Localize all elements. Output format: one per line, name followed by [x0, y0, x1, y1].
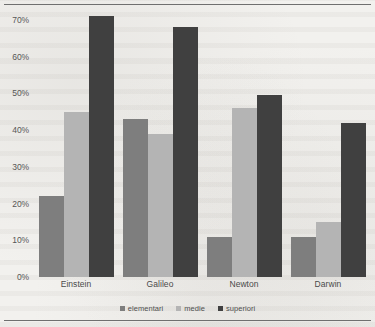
legend-label-medie: medie [184, 304, 205, 313]
legend-swatch-icon-elementari [120, 306, 125, 311]
x-axis-label-newton: Newton [202, 279, 286, 293]
y-axis-tick-70: 70% [12, 15, 29, 25]
y-axis-tick-20: 20% [12, 199, 29, 209]
legend-label-elementari: elementari [128, 304, 164, 313]
x-axis-label-galileo: Galileo [118, 279, 202, 293]
bar-darwin-superiori[interactable] [341, 123, 366, 277]
bar-darwin-elementari[interactable] [291, 237, 316, 277]
bar-newton-superiori[interactable] [257, 95, 282, 277]
legend-swatch-icon-superiori [218, 306, 223, 311]
y-axis-tick-50: 50% [12, 88, 29, 98]
bar-darwin-medie[interactable] [316, 222, 341, 277]
y-axis-tick-10: 10% [12, 235, 29, 245]
legend-swatch-icon-medie [176, 306, 181, 311]
chart-legend: elementarimediesuperiori [0, 304, 375, 313]
legend-label-superiori: superiori [226, 304, 255, 313]
legend-item-superiori[interactable]: superiori [218, 304, 255, 313]
bar-newton-medie[interactable] [232, 108, 257, 277]
bar-einstein-superiori[interactable] [89, 16, 114, 277]
bar-group-darwin [286, 14, 370, 277]
bar-newton-elementari[interactable] [207, 237, 232, 277]
bar-galileo-elementari[interactable] [123, 119, 148, 277]
y-axis: 0%10%20%30%40%50%60%70% [0, 14, 32, 277]
bar-einstein-medie[interactable] [64, 112, 89, 277]
bottom-divider-rule [4, 320, 371, 321]
bar-galileo-superiori[interactable] [173, 27, 198, 277]
bar-groups [34, 14, 370, 277]
bar-galileo-medie[interactable] [148, 134, 173, 277]
bar-einstein-elementari[interactable] [39, 196, 64, 277]
y-axis-tick-30: 30% [12, 162, 29, 172]
y-axis-tick-0: 0% [17, 272, 29, 282]
x-axis-label-einstein: Einstein [34, 279, 118, 293]
plot-area [34, 14, 370, 277]
top-divider-rule [4, 4, 371, 5]
bar-group-newton [202, 14, 286, 277]
x-axis-labels: EinsteinGalileoNewtonDarwin [34, 279, 370, 293]
bar-group-galileo [118, 14, 202, 277]
bar-group-einstein [34, 14, 118, 277]
y-axis-tick-40: 40% [12, 125, 29, 135]
bar-chart: 0%10%20%30%40%50%60%70% EinsteinGalileoN… [0, 0, 375, 327]
legend-item-medie[interactable]: medie [176, 304, 205, 313]
legend-item-elementari[interactable]: elementari [120, 304, 164, 313]
y-axis-tick-60: 60% [12, 52, 29, 62]
x-axis-label-darwin: Darwin [286, 279, 370, 293]
